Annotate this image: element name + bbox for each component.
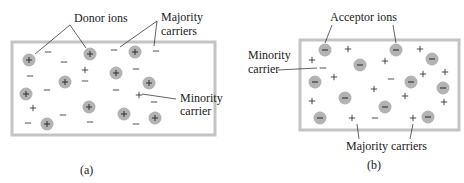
label-acceptor-ions: Acceptor ions bbox=[330, 11, 397, 24]
label-minority-carrier-b-line2: carrier bbox=[248, 63, 279, 76]
label-minority-carrier-a-line2: carrier bbox=[180, 105, 211, 118]
label-majority-carriers-a-line2: carriers bbox=[161, 25, 197, 38]
label-majority-carriers-a-line1: Majority bbox=[161, 11, 203, 24]
caption-b: (b) bbox=[367, 158, 381, 173]
semiconductor-diagram bbox=[0, 0, 464, 183]
caption-a: (a) bbox=[80, 163, 93, 178]
label-donor-ions: Donor ions bbox=[74, 12, 128, 25]
label-minority-carrier-b-line1: Minority bbox=[248, 49, 291, 62]
label-majority-carriers-b: Majority carriers bbox=[346, 140, 427, 153]
